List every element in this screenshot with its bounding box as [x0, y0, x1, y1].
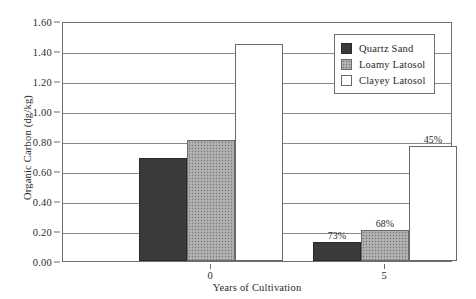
- y-tick-mark: [54, 172, 60, 173]
- x-tick-label: 5: [381, 270, 386, 281]
- legend-item-label: Quartz Sand: [359, 43, 413, 54]
- legend-item-quartz[interactable]: Quartz Sand: [341, 40, 426, 56]
- y-tick-mark: [54, 202, 60, 203]
- legend-item-label: Loamy Latosol: [359, 59, 425, 70]
- x-tick-mark: [384, 264, 385, 269]
- y-tick-mark: [54, 22, 60, 23]
- bar-clayey-group-0[interactable]: [235, 44, 283, 262]
- y-tick-mark: [54, 52, 60, 53]
- y-tick-label: 1.20: [33, 77, 52, 88]
- plot-area: 73%68%45% Quartz SandLoamy LatosolClayey…: [62, 22, 452, 262]
- y-tick-mark: [54, 112, 60, 113]
- bar-quartz-group-0[interactable]: [139, 158, 187, 262]
- y-tick-mark: [54, 82, 60, 83]
- y-tick-label: 0.60: [33, 167, 52, 178]
- x-axis-title: Years of Cultivation: [62, 282, 452, 293]
- y-tick-label: 0.40: [33, 197, 52, 208]
- x-tick-mark: [210, 264, 211, 269]
- y-tick-mark: [54, 232, 60, 233]
- legend-item-clayey[interactable]: Clayey Latosol: [341, 72, 426, 88]
- bar-quartz-group-5[interactable]: [313, 242, 361, 262]
- bar-chart-figure: Organic Carbon (dg/kg) 1.601.401.201.000…: [0, 0, 476, 299]
- y-tick-label: 0.80: [33, 137, 52, 148]
- bar-clayey-group-5[interactable]: [409, 146, 457, 261]
- y-tick-mark: [54, 262, 60, 263]
- legend-item-label: Clayey Latosol: [359, 75, 426, 86]
- legend-swatch-icon: [341, 59, 352, 70]
- y-axis: 1.601.401.201.000.800.600.400.200.00: [0, 22, 60, 262]
- bar-loamy-group-0[interactable]: [187, 140, 235, 262]
- y-tick-mark: [54, 142, 60, 143]
- legend: Quartz SandLoamy LatosolClayey Latosol: [334, 34, 435, 94]
- y-tick-label: 1.00: [33, 107, 52, 118]
- bar-value-label: 73%: [328, 230, 346, 241]
- y-tick-label: 1.40: [33, 47, 52, 58]
- y-tick-label: 0.00: [33, 257, 52, 268]
- x-tick-label: 0: [207, 270, 212, 281]
- legend-item-loamy[interactable]: Loamy Latosol: [341, 56, 426, 72]
- bar-value-label: 45%: [424, 134, 442, 145]
- legend-swatch-icon: [341, 75, 352, 86]
- bar-value-label: 68%: [376, 218, 394, 229]
- y-tick-label: 1.60: [33, 17, 52, 28]
- bar-loamy-group-5[interactable]: [361, 230, 409, 262]
- legend-swatch-icon: [341, 43, 352, 54]
- x-axis: 05: [62, 264, 452, 284]
- y-tick-label: 0.20: [33, 227, 52, 238]
